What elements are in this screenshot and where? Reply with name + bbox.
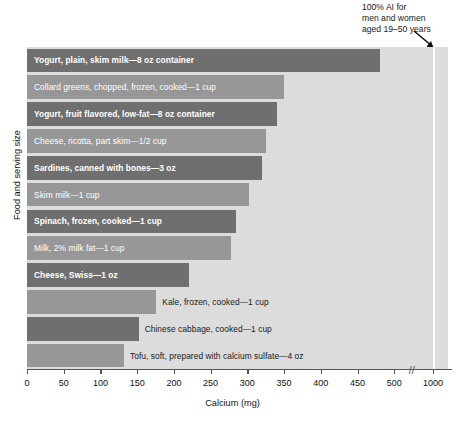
x-axis-tick [100, 369, 101, 374]
bar-row: Cheese, Swiss—1 oz [27, 262, 448, 289]
bar[interactable] [27, 317, 139, 341]
x-axis-tick-label: 250 [203, 378, 218, 388]
x-axis-tick-label: 150 [130, 378, 145, 388]
x-axis-tick-label: 450 [350, 378, 365, 388]
bar-row: Sardines, canned with bones—3 oz [27, 154, 448, 181]
bar-label: Tofu, soft, prepared with calcium sulfat… [130, 351, 304, 361]
x-axis-title: Calcium (mg) [0, 398, 465, 408]
bar-row: Milk, 2% milk fat—1 cup [27, 235, 448, 262]
bar-row: Kale, frozen, cooked—1 cup [27, 289, 448, 316]
annotation-line-3: aged 19–50 years [362, 24, 462, 35]
bar-row: Collard greens, chopped, frozen, cooked—… [27, 74, 448, 101]
bar-label: Cheese, ricotta, part skim—1/2 cup [34, 136, 167, 146]
x-axis-tick [174, 369, 175, 374]
bar-label: Kale, frozen, cooked—1 cup [162, 297, 269, 307]
bar-row: Tofu, soft, prepared with calcium sulfat… [27, 342, 448, 369]
bar-row: Spinach, frozen, cooked—1 cup [27, 208, 448, 235]
bar-label: Sardines, canned with bones—3 oz [34, 163, 176, 173]
x-axis-tick-label: 1000 [423, 378, 443, 388]
bar-row: Skim milk—1 cup [27, 181, 448, 208]
bar-label: Milk, 2% milk fat—1 cup [34, 243, 125, 253]
x-axis-tick-label: 400 [313, 378, 328, 388]
bar-row: Yogurt, fruit flavored, low-fat—8 oz con… [27, 101, 448, 128]
bar-row: Chinese cabbage, cooked—1 cup [27, 315, 448, 342]
bar-label: Cheese, Swiss—1 oz [34, 270, 118, 280]
x-axis-tick [211, 369, 212, 374]
y-axis-title: Food and serving size [12, 100, 22, 250]
bar-label: Chinese cabbage, cooked—1 cup [145, 324, 272, 334]
bar-label: Spinach, frozen, cooked—1 cup [34, 216, 162, 226]
x-axis-tick [394, 369, 395, 374]
bar[interactable] [27, 290, 156, 314]
x-axis-tick [27, 369, 28, 374]
calcium-bar-chart: 100% AI for men and women aged 19–50 yea… [0, 0, 465, 422]
bar-row: Yogurt, plain, skim milk—8 oz container [27, 47, 448, 74]
plot-area: Yogurt, plain, skim milk—8 oz containerC… [27, 47, 448, 369]
x-axis-tick [358, 369, 359, 374]
x-axis-tick-label: 100 [93, 378, 108, 388]
bar[interactable] [27, 344, 124, 368]
bar-label: Yogurt, fruit flavored, low-fat—8 oz con… [34, 109, 215, 119]
x-axis-tick [247, 369, 248, 374]
x-axis-tick [321, 369, 322, 374]
x-axis-tick [433, 369, 434, 374]
x-axis-tick-label: 50 [59, 378, 69, 388]
x-axis-tick-label: 300 [240, 378, 255, 388]
x-axis-tick-label: 0 [24, 378, 29, 388]
reference-line-annotation: 100% AI for men and women aged 19–50 yea… [362, 2, 462, 36]
x-axis-tick-label: 500 [387, 378, 402, 388]
bar-row: Cheese, ricotta, part skim—1/2 cup [27, 128, 448, 155]
bar-label: Skim milk—1 cup [34, 190, 99, 200]
x-axis-tick [137, 369, 138, 374]
x-axis-tick [64, 369, 65, 374]
bar-label: Collard greens, chopped, frozen, cooked—… [34, 82, 216, 92]
axis-break-icon: // [409, 364, 415, 376]
x-axis: 0501001502002503003504004505001000// [27, 369, 452, 370]
bar-label: Yogurt, plain, skim milk—8 oz container [34, 55, 194, 65]
x-axis-tick [284, 369, 285, 374]
annotation-line-1: 100% AI for [362, 2, 462, 13]
x-axis-tick-label: 350 [277, 378, 292, 388]
x-axis-tick-label: 200 [166, 378, 181, 388]
annotation-line-2: men and women [362, 13, 462, 24]
